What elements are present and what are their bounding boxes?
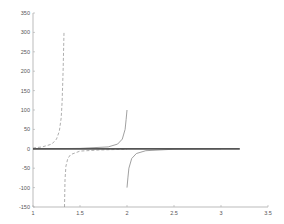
series-group (33, 32, 240, 207)
x-tick-label: 2 (125, 210, 128, 216)
dashed-curve (65, 149, 128, 207)
solid-curve (127, 149, 221, 188)
solid-curve (33, 110, 127, 149)
x-tick-label: 1 (31, 210, 34, 216)
y-tick-label: 350 (21, 10, 30, 16)
y-tick-label: 100 (21, 107, 30, 113)
dashed-curve (33, 32, 64, 148)
y-tick-label: -100 (19, 185, 30, 191)
x-tick-label: 3.5 (264, 210, 272, 216)
y-tick-label: 150 (21, 88, 30, 94)
y-tick-label: -150 (19, 204, 30, 210)
y-tick-label: 250 (21, 49, 30, 55)
x-tick-label: 1.5 (76, 210, 84, 216)
y-tick-label: 0 (27, 146, 30, 152)
x-tick-label: 2.5 (170, 210, 178, 216)
x-tick-label: 3 (219, 210, 222, 216)
axes: 350300250200150100500-50-100-15011.522.5… (19, 10, 272, 216)
y-tick-label: 300 (21, 29, 30, 35)
y-tick-label: 200 (21, 68, 30, 74)
y-tick-label: -50 (22, 165, 30, 171)
chart: 350300250200150100500-50-100-15011.522.5… (0, 0, 284, 224)
y-tick-label: 50 (24, 126, 30, 132)
